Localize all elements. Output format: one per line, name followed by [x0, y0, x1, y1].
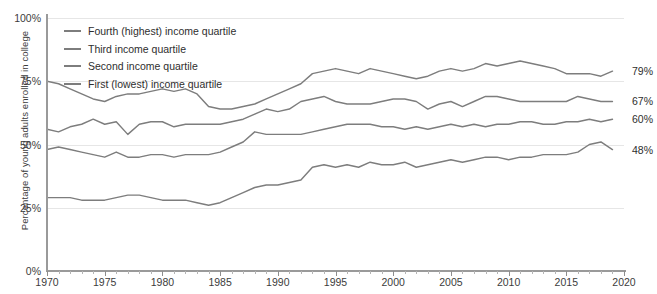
x-axis-tickmark [255, 271, 256, 274]
x-axis-tickmark [347, 271, 348, 274]
x-axis-tickmark [232, 271, 233, 274]
x-axis-tickmark [382, 271, 383, 274]
x-axis-tickmark [312, 271, 313, 274]
x-axis-tickmark [93, 271, 94, 274]
x-axis-tickmark [59, 271, 60, 274]
x-axis-tickmark [474, 271, 475, 274]
college-enrollment-chart: Percentage of young adults enrolled in c… [0, 0, 657, 294]
x-axis-tick-label: 1975 [93, 276, 116, 288]
x-axis-tickmark [543, 271, 544, 274]
x-axis-tickmark [497, 271, 498, 274]
x-axis-tickmark [301, 271, 302, 274]
x-axis-tickmark [82, 271, 83, 274]
x-axis-tickmark [370, 271, 371, 274]
legend-item[interactable]: Third income quartile [64, 42, 236, 56]
series-end-label: 79% [632, 65, 653, 77]
series-end-label: 60% [632, 113, 653, 125]
x-axis-tick-label: 1995 [324, 276, 347, 288]
legend-line-icon [64, 48, 81, 50]
x-axis-tick-label: 2015 [555, 276, 578, 288]
y-axis-ticks: 0%25%50%75%100% [0, 0, 41, 294]
legend-line-icon [64, 30, 81, 32]
legend-item[interactable]: Fourth (highest) income quartile [64, 24, 236, 38]
x-axis-tickmark [601, 271, 602, 274]
x-axis-tickmark [151, 271, 152, 274]
series-end-label: 67% [632, 95, 653, 107]
x-axis-tickmark [532, 271, 533, 274]
x-axis-tickmark [70, 271, 71, 274]
x-axis-tickmark [289, 271, 290, 274]
x-axis-tickmark [416, 271, 417, 274]
x-axis-tickmark [612, 271, 613, 274]
legend-label: Second income quartile [88, 60, 198, 72]
x-axis-tickmark [578, 271, 579, 274]
x-axis-tick-label: 2005 [439, 276, 462, 288]
x-axis-tickmark [209, 271, 210, 274]
series-line [47, 119, 612, 157]
x-axis-tickmark [266, 271, 267, 274]
legend-item[interactable]: Second income quartile [64, 59, 236, 73]
x-axis-tick-label: 2020 [612, 276, 635, 288]
x-axis-tickmark [139, 271, 140, 274]
y-axis-tick-label: 100% [7, 12, 41, 24]
x-axis-tickmark [555, 271, 556, 274]
x-axis-labels: 1970197519801985199019952000200520102015… [0, 276, 657, 292]
x-axis-tickmark [486, 271, 487, 274]
legend-label: First (lowest) income quartile [88, 78, 222, 90]
x-axis-tick-label: 2000 [382, 276, 405, 288]
x-axis-tickmark [174, 271, 175, 274]
x-axis-tickmark [197, 271, 198, 274]
legend-label: Third income quartile [88, 43, 186, 55]
x-axis-tickmark [243, 271, 244, 274]
x-axis-tick-label: 1980 [151, 276, 174, 288]
x-axis-tickmark [405, 271, 406, 274]
x-axis-tickmark [589, 271, 590, 274]
x-axis-tickmark [324, 271, 325, 274]
x-axis-tickmark [128, 271, 129, 274]
legend: Fourth (highest) income quartileThird in… [64, 24, 236, 94]
legend-item[interactable]: First (lowest) income quartile [64, 77, 236, 91]
x-axis-tickmark [359, 271, 360, 274]
y-axis-tick-label: 25% [7, 202, 41, 214]
x-axis-tickmark [185, 271, 186, 274]
y-axis-line [46, 14, 48, 272]
x-axis-tickmark [116, 271, 117, 274]
x-axis-tick-label: 1970 [35, 276, 58, 288]
x-axis-tickmark [439, 271, 440, 274]
x-axis-tickmark [428, 271, 429, 274]
legend-line-icon [64, 83, 81, 85]
legend-label: Fourth (highest) income quartile [88, 25, 236, 37]
series-line [47, 142, 612, 205]
x-axis-tick-label: 1985 [208, 276, 231, 288]
y-axis-tick-label: 75% [7, 75, 41, 87]
x-axis-tickmark [462, 271, 463, 274]
legend-line-icon [64, 65, 81, 67]
y-axis-tick-label: 50% [7, 139, 41, 151]
x-axis-tick-label: 2010 [497, 276, 520, 288]
x-axis-tickmark [520, 271, 521, 274]
x-axis-tick-label: 1990 [266, 276, 289, 288]
series-end-label: 48% [632, 144, 653, 156]
